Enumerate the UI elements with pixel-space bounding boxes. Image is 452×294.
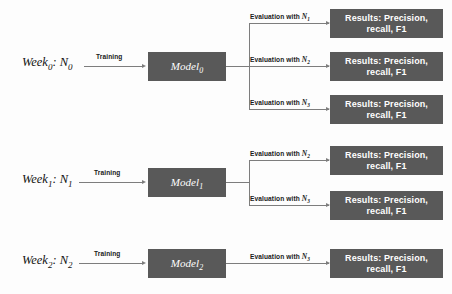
source-value-sub: 1 [68,179,73,189]
model-box-week0[interactable]: Model0 [148,52,226,81]
branch-line-week1-2 [249,205,329,206]
model-out-line-week1 [226,182,250,183]
source-week-text: Week [22,55,48,69]
source-week-text: Week [22,253,48,267]
source-label-week2: Week2: N2 [22,253,73,268]
result-text-week2-1: Results: Precision,recall, F1 [345,253,428,274]
model-box-week1[interactable]: Model1 [148,168,226,197]
result-box-week2-1[interactable]: Results: Precision,recall, F1 [330,249,443,278]
training-arrow-head-week1 [142,180,146,184]
source-colon: : [52,55,59,69]
eval-label-week1-2: Evaluation with N3 [250,194,310,203]
eval-label-week0-1: Evaluation with N1 [250,12,310,21]
result-box-week0-1[interactable]: Results: Precision,recall, F1 [330,9,443,38]
result-text-week1-2: Results: Precision,recall, F1 [345,195,428,216]
model-label-week0: Model0 [171,60,204,73]
result-box-week1-2[interactable]: Results: Precision,recall, F1 [330,191,443,220]
result-box-week0-2[interactable]: Results: Precision,recall, F1 [330,52,443,81]
source-value-text: N [60,172,68,186]
training-arrow-line-week2 [79,263,143,264]
training-label-week1: Training [94,169,120,176]
source-value-sub: 2 [68,260,73,270]
branch-line-week0-1 [249,23,329,24]
result-box-week0-3[interactable]: Results: Precision,recall, F1 [330,95,443,124]
pipeline-diagram: Week0: N0 Training Model0 Evaluation wit… [0,0,452,294]
result-box-week1-1[interactable]: Results: Precision,recall, F1 [330,146,443,175]
result-text-week0-2: Results: Precision,recall, F1 [345,56,428,77]
training-arrow-head-week2 [142,261,146,265]
eval-label-week2-1: Evaluation with N3 [250,252,310,261]
eval-label-week0-2: Evaluation with N2 [250,55,310,64]
training-label-week0: Training [96,53,122,60]
branch-line-week2-1 [226,263,329,264]
training-label-week2: Training [94,250,120,257]
source-colon: : [52,253,59,267]
source-value-sub: 0 [68,62,73,72]
model-box-week2[interactable]: Model2 [148,249,226,278]
result-text-week1-1: Results: Precision,recall, F1 [345,150,428,171]
result-text-week0-1: Results: Precision,recall, F1 [345,13,428,34]
source-value-text: N [60,55,68,69]
branch-line-week0-2 [249,66,329,67]
eval-label-week1-1: Evaluation with N2 [250,149,310,158]
branch-line-week0-3 [249,109,329,110]
result-text-week0-3: Results: Precision,recall, F1 [345,99,428,120]
branch-line-week1-1 [249,160,329,161]
model-label-week2: Model2 [171,257,204,270]
source-value-text: N [60,253,68,267]
source-label-week0: Week0: N0 [22,55,73,70]
source-week-text: Week [22,172,48,186]
source-colon: : [52,172,59,186]
model-out-line-week0 [226,66,250,67]
source-label-week1: Week1: N1 [22,172,73,187]
model-label-week1: Model1 [171,176,204,189]
training-arrow-head-week0 [142,64,146,68]
training-arrow-line-week0 [84,66,143,67]
training-arrow-line-week1 [79,182,143,183]
eval-label-week0-3: Evaluation with N3 [250,98,310,107]
